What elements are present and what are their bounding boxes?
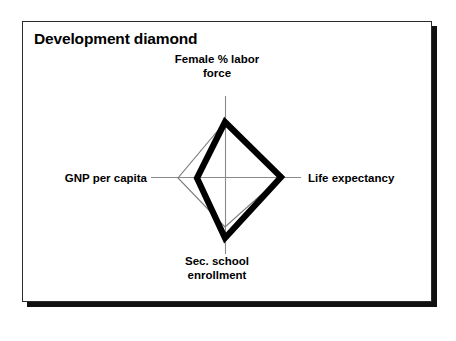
axis-label-line-2: enrollment	[151, 268, 283, 282]
radar-plot-area: Female % labor force Life expectancy Sec…	[23, 22, 433, 303]
radar-series-country	[197, 122, 281, 238]
axis-label-line-2: force	[151, 66, 283, 80]
axis-label-line-1: Female % labor	[151, 52, 283, 66]
axis-label-life-expectancy: Life expectancy	[308, 171, 432, 185]
axis-label-sec-school-enrollment: Sec. school enrollment	[151, 254, 283, 282]
axis-label-gnp-per-capita: GNP per capita	[29, 171, 147, 185]
radar-series-reference-group	[178, 122, 281, 227]
axis-label-female-labor-force: Female % labor force	[151, 52, 283, 80]
axis-label-line-1: Sec. school	[151, 254, 283, 268]
figure-frame: Development diamond Female % labor force…	[22, 21, 432, 302]
axis-label-line-1: Life expectancy	[308, 171, 432, 185]
axis-label-line-1: GNP per capita	[29, 171, 147, 185]
